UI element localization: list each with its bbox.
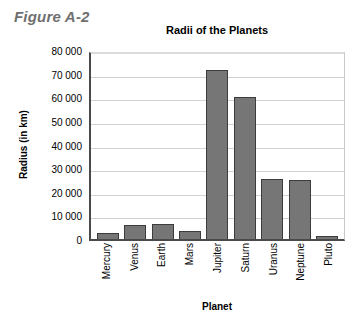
x-tick-slot: Mercury (92, 243, 120, 301)
y-axis-tick-label: 20 000 (51, 189, 82, 199)
bar-slot (314, 53, 341, 239)
x-tick-slot: Pluto (314, 243, 342, 301)
x-axis-tick-label-earth: Earth (156, 243, 167, 267)
y-axis-tick-label: 10 000 (51, 212, 82, 222)
y-axis-tick-label: 70 000 (51, 71, 82, 81)
x-tick-slot: Earth (148, 243, 176, 301)
bar-series (91, 53, 344, 239)
bar-slot (231, 53, 258, 239)
bar-slot (259, 53, 286, 239)
y-axis-tick-labels: 010 00020 00030 00040 00050 00060 00070 … (24, 52, 86, 241)
plot-area (89, 52, 345, 241)
bar-mars[interactable] (179, 231, 201, 239)
x-axis-tick-labels: MercuryVenusEarthMarsJupiterSaturnUranus… (89, 243, 345, 301)
bar-slot (286, 53, 313, 239)
bar-slot (149, 53, 176, 239)
x-tick-slot: Venus (120, 243, 148, 301)
x-axis-tick-label-mercury: Mercury (100, 243, 111, 279)
bar-neptune[interactable] (289, 180, 311, 239)
x-axis-tick-label-jupiter: Jupiter (212, 243, 223, 273)
y-axis-tick-label: 40 000 (51, 142, 82, 152)
bar-venus[interactable] (124, 225, 146, 239)
x-axis-title: Planet (89, 301, 345, 312)
bar-earth[interactable] (152, 224, 174, 239)
chart-title: Radii of the Planets (89, 24, 345, 36)
bar-slot (94, 53, 121, 239)
y-axis-tick-label: 30 000 (51, 165, 82, 175)
figure-label: Figure A-2 (14, 8, 90, 25)
x-tick-slot: Neptune (286, 243, 314, 301)
bar-mercury[interactable] (97, 233, 119, 239)
y-axis-tick-label: 80 000 (51, 47, 82, 57)
y-axis-tick-label: 60 000 (51, 94, 82, 104)
x-axis-tick-label-venus: Venus (128, 243, 139, 271)
bar-pluto[interactable] (316, 236, 338, 239)
x-axis-tick-label-uranus: Uranus (267, 243, 278, 275)
bar-slot (121, 53, 148, 239)
x-axis-tick-label-neptune: Neptune (295, 243, 306, 281)
y-axis-tick-label: 50 000 (51, 118, 82, 128)
figure-container: Figure A-2 Radii of the Planets Radius (… (0, 0, 362, 320)
bar-uranus[interactable] (261, 179, 283, 239)
x-tick-slot: Uranus (259, 243, 287, 301)
y-axis-tick-label: 0 (76, 236, 82, 246)
x-tick-slot: Jupiter (203, 243, 231, 301)
x-axis-tick-label-pluto: Pluto (323, 243, 334, 266)
bar-slot (204, 53, 231, 239)
x-axis-tick-label-mars: Mars (184, 243, 195, 265)
bar-jupiter[interactable] (206, 70, 228, 239)
bar-slot (176, 53, 203, 239)
x-tick-slot: Saturn (231, 243, 259, 301)
bar-saturn[interactable] (234, 97, 256, 239)
x-tick-slot: Mars (175, 243, 203, 301)
x-axis-tick-label-saturn: Saturn (239, 243, 250, 272)
